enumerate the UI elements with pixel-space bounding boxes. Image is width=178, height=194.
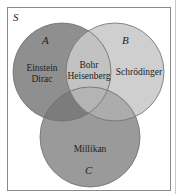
region-ab-line1: Bohr xyxy=(80,60,100,70)
set-c-label: C xyxy=(85,164,93,176)
set-a-label: A xyxy=(41,34,49,46)
region-b-only-line1: Schrödinger xyxy=(116,67,163,77)
universe-label: S xyxy=(13,11,19,23)
region-c-only-line1: Millikan xyxy=(74,144,107,154)
region-ab-line2: Heisenberg xyxy=(67,71,110,81)
region-a-only-line1: Einstein xyxy=(26,63,57,73)
set-b-label: B xyxy=(122,34,129,46)
venn-diagram: S A B C Einstein Dirac Bohr Heisenberg S… xyxy=(0,0,178,194)
region-a-only-line2: Dirac xyxy=(31,74,52,84)
